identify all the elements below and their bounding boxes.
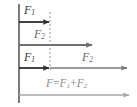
diagram-canvas [0,0,137,107]
label-f2-bottom-sub: 2 [89,55,93,64]
equation-term1: F [60,77,67,89]
label-f2-middle: F2 [34,28,45,41]
label-f2-bottom: F2 [82,51,93,64]
label-f1-top: F1 [24,4,35,17]
label-f1-bottom: F1 [24,51,35,64]
equation-lhs: F [46,77,53,89]
equation-term2-sub: 2 [84,82,88,90]
resultant-force-equation: F=F1+F2 [46,78,87,90]
label-f2-middle-sub: 2 [41,32,45,41]
equation-term2: F [77,77,84,89]
force-vector-addition-figure: F1 F2 F1 F2 F=F1+F2 [0,0,137,107]
label-f1-bottom-sub: 1 [31,55,35,64]
label-f1-top-sub: 1 [31,8,35,17]
